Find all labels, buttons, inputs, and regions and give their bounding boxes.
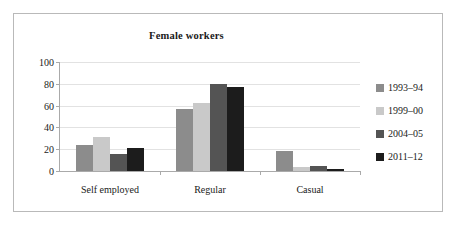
bar[interactable]	[227, 87, 244, 171]
y-tick-label: 80	[44, 78, 54, 89]
legend-label: 1999–00	[388, 105, 423, 116]
x-tick-mark	[360, 171, 361, 175]
y-tick-label: 20	[44, 144, 54, 155]
legend-swatch-icon	[376, 84, 384, 92]
legend-entry[interactable]: 1999–00	[376, 105, 423, 116]
x-tick-mark	[160, 171, 161, 175]
legend-label: 2011–12	[388, 151, 423, 162]
bar[interactable]	[127, 148, 144, 171]
legend-entry[interactable]: 1993–94	[376, 82, 423, 93]
legend-swatch-icon	[376, 107, 384, 115]
legend-label: 2004–05	[388, 128, 423, 139]
y-tick-label: 100	[39, 57, 54, 68]
chart-frame: Female workers 020406080100 Self employe…	[13, 13, 443, 212]
x-tick-mark	[260, 171, 261, 175]
bar-series-layer: Self employedRegularCasual	[60, 62, 360, 171]
plot-area: 020406080100 Self employedRegularCasual	[59, 62, 360, 172]
bar[interactable]	[176, 109, 193, 171]
bar-group: Casual	[260, 62, 360, 171]
bar[interactable]	[327, 169, 344, 171]
bar[interactable]	[193, 103, 210, 171]
y-tick-mark	[56, 171, 60, 172]
bar[interactable]	[110, 154, 127, 171]
bar-group: Regular	[160, 62, 260, 171]
bar-group: Self employed	[60, 62, 160, 171]
legend-entry[interactable]: 2004–05	[376, 128, 423, 139]
legend-swatch-icon	[376, 130, 384, 138]
bar[interactable]	[93, 137, 110, 171]
legend-label: 1993–94	[388, 82, 423, 93]
legend-swatch-icon	[376, 153, 384, 161]
y-tick-label: 60	[44, 100, 54, 111]
bar[interactable]	[310, 166, 327, 171]
bar[interactable]	[276, 151, 293, 171]
bar[interactable]	[210, 84, 227, 171]
bar[interactable]	[76, 145, 93, 171]
bar[interactable]	[293, 167, 310, 171]
x-axis-category-label: Self employed	[81, 184, 139, 195]
legend-entry[interactable]: 2011–12	[376, 151, 423, 162]
y-tick-label: 40	[44, 122, 54, 133]
x-axis-category-label: Regular	[194, 184, 226, 195]
x-axis-category-label: Casual	[296, 184, 323, 195]
legend: 1993–941999–002004–052011–12	[376, 82, 423, 162]
y-tick-label: 0	[49, 166, 54, 177]
chart-title: Female workers	[14, 30, 359, 41]
